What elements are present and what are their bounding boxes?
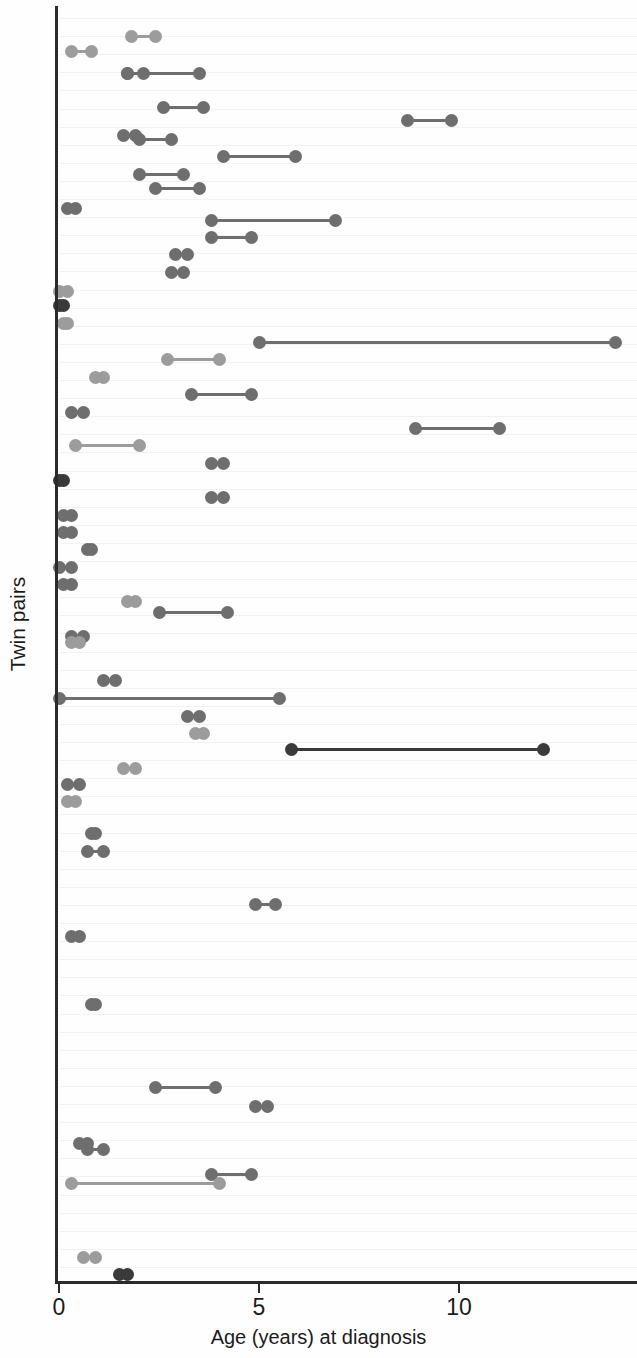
twin-pair-row — [59, 996, 637, 1014]
twin-a-dot — [409, 422, 422, 435]
twin-b-dot — [109, 674, 122, 687]
twin-a-dot — [285, 743, 298, 756]
twin-pair-row — [59, 437, 637, 455]
twin-b-dot — [609, 336, 622, 349]
twin-a-dot — [205, 214, 218, 227]
gridline — [59, 1032, 637, 1033]
twin-a-dot — [205, 231, 218, 244]
twin-pair-row — [59, 369, 637, 387]
twin-b-dot — [133, 439, 146, 452]
gridline — [59, 814, 637, 815]
twin-b-dot — [445, 114, 458, 127]
twin-b-dot — [493, 422, 506, 435]
twin-a-dot — [61, 778, 74, 791]
twin-b-dot — [77, 406, 90, 419]
twin-pair-row — [59, 315, 637, 333]
gridline — [59, 1195, 637, 1196]
twin-b-dot — [213, 1177, 226, 1190]
twin-pair-row — [59, 455, 637, 473]
plot-area — [59, 8, 637, 1280]
twin-b-dot — [85, 45, 98, 58]
pair-connector — [71, 1182, 219, 1185]
twin-pair-row — [59, 112, 637, 130]
twin-b-dot — [537, 743, 550, 756]
twin-a-dot — [169, 248, 182, 261]
twin-a-dot — [161, 353, 174, 366]
gridline — [59, 1068, 637, 1069]
twin-pair-row — [59, 43, 637, 61]
twin-b-dot — [221, 606, 234, 619]
gridline — [59, 90, 637, 91]
twin-a-dot — [253, 336, 266, 349]
twin-a-dot — [185, 388, 198, 401]
x-tick-label: 5 — [229, 1294, 289, 1321]
twin-b-dot — [57, 299, 70, 312]
twin-a-dot — [249, 1100, 262, 1113]
twin-pair-row — [59, 351, 637, 369]
twin-pair-row — [59, 672, 637, 690]
twin-a-dot — [121, 67, 134, 80]
twin-a-dot — [69, 439, 82, 452]
twin-pair-row — [59, 843, 637, 861]
gridline — [59, 887, 637, 888]
twin-a-dot — [205, 457, 218, 470]
twin-a-dot — [81, 845, 94, 858]
twin-b-dot — [89, 1251, 102, 1264]
pair-connector — [75, 444, 139, 447]
x-axis-label: Age (years) at diagnosis — [0, 1326, 637, 1349]
twin-a-dot — [97, 674, 110, 687]
twin-pair-row — [59, 148, 637, 166]
twin-a-dot — [117, 762, 130, 775]
pair-connector — [211, 219, 335, 222]
x-tick-label: 10 — [429, 1294, 489, 1321]
twin-b-dot — [217, 491, 230, 504]
twin-pair-row — [59, 1079, 637, 1097]
twin-b-dot — [121, 1268, 134, 1281]
twin-b-dot — [73, 930, 86, 943]
twin-b-dot — [193, 710, 206, 723]
twin-b-dot — [217, 457, 230, 470]
twin-pair-row — [59, 524, 637, 542]
twin-b-dot — [129, 762, 142, 775]
twin-b-dot — [193, 67, 206, 80]
twin-pair-row — [59, 928, 637, 946]
twin-a-dot — [77, 1251, 90, 1264]
gridline — [59, 1213, 637, 1214]
twin-pair-row — [59, 1175, 637, 1193]
twin-b-dot — [289, 150, 302, 163]
twin-a-dot — [65, 406, 78, 419]
twin-pair-row — [59, 489, 637, 507]
twin-b-dot — [73, 778, 86, 791]
twin-b-dot — [273, 692, 286, 705]
twin-b-dot — [213, 353, 226, 366]
twin-pair-row — [59, 264, 637, 282]
gridline — [59, 1122, 637, 1123]
gridline — [59, 869, 637, 870]
twin-b-dot — [65, 578, 78, 591]
twin-b-dot — [245, 231, 258, 244]
twin-b-dot — [261, 1100, 274, 1113]
gridline — [59, 670, 637, 671]
twin-a-dot — [249, 898, 262, 911]
twin-b-dot — [97, 371, 110, 384]
pair-connector — [291, 748, 543, 751]
x-tick — [458, 1284, 460, 1293]
twin-a-dot — [133, 133, 146, 146]
chart-root: 0510 Age (years) at diagnosis Twin pairs — [0, 0, 637, 1358]
pair-connector — [59, 697, 279, 700]
twin-b-dot — [177, 266, 190, 279]
twin-pair-row — [59, 604, 637, 622]
twin-pair-row — [59, 131, 637, 149]
twin-b-dot — [165, 133, 178, 146]
x-tick — [258, 1284, 260, 1293]
twin-a-dot — [125, 30, 138, 43]
twin-b-dot — [181, 248, 194, 261]
twin-pair-row — [59, 229, 637, 247]
twin-pair-row — [59, 297, 637, 315]
twin-a-dot — [149, 182, 162, 195]
x-tick — [58, 1284, 60, 1293]
twin-b-dot — [149, 30, 162, 43]
gridline — [59, 959, 637, 960]
twin-a-dot — [205, 491, 218, 504]
twin-pair-row — [59, 180, 637, 198]
